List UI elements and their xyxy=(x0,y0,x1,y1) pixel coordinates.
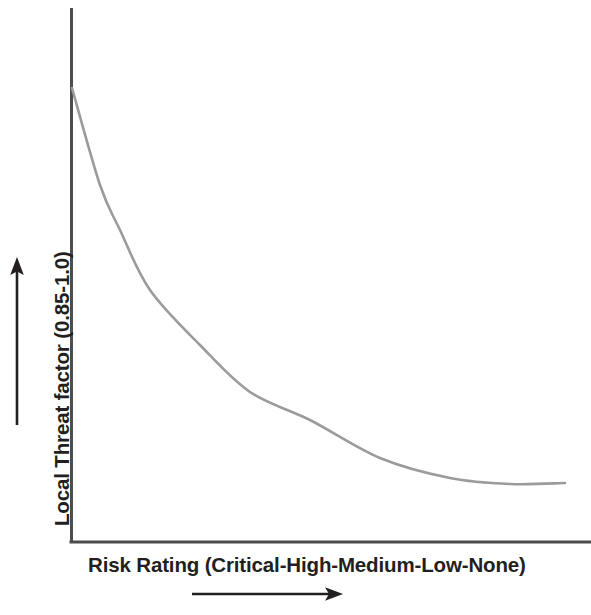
plot-area xyxy=(0,0,591,615)
axis-lines xyxy=(70,8,591,543)
x-axis-label: Risk Rating (Critical-High-Medium-Low-No… xyxy=(88,555,526,576)
y-direction-arrow-icon xyxy=(10,257,24,425)
x-direction-arrow-icon xyxy=(192,587,343,601)
threat-factor-curve xyxy=(72,88,565,484)
chart-figure: Risk Rating (Critical-High-Medium-Low-No… xyxy=(0,0,591,615)
y-axis-label: Local Threat factor (0.85-1.0) xyxy=(52,251,73,526)
